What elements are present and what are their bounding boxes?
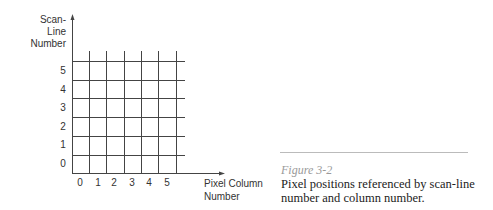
y-axis-label: Scan- Line Number xyxy=(30,14,66,50)
row-label-4: 4 xyxy=(57,85,69,95)
y-axis-label-line: Line xyxy=(30,26,66,38)
row-label-0: 0 xyxy=(57,159,69,169)
figure-number: Figure 3-2 xyxy=(281,163,332,178)
row-label-5: 5 xyxy=(57,66,69,76)
row-label-2: 2 xyxy=(57,122,69,132)
column-label-0: 0 xyxy=(74,178,86,188)
column-label-4: 4 xyxy=(143,178,155,188)
column-label-2: 2 xyxy=(108,178,120,188)
row-label-1: 1 xyxy=(57,140,69,150)
y-axis-label-line: Number xyxy=(30,38,66,50)
y-axis-label-line: Scan- xyxy=(30,14,66,26)
caption-rule xyxy=(280,152,468,153)
x-axis-label-line: Pixel Column xyxy=(204,177,263,190)
figure-caption: Pixel positions referenced by scan-line … xyxy=(281,177,481,205)
x-axis-arrow-icon xyxy=(219,172,225,176)
x-axis-label-line: Number xyxy=(204,190,263,203)
x-axis-label: Pixel Column Number xyxy=(204,177,263,203)
column-label-1: 1 xyxy=(92,178,104,188)
row-label-3: 3 xyxy=(57,103,69,113)
column-label-3: 3 xyxy=(126,178,138,188)
column-label-5: 5 xyxy=(161,178,173,188)
y-axis-arrow-icon xyxy=(71,14,75,20)
